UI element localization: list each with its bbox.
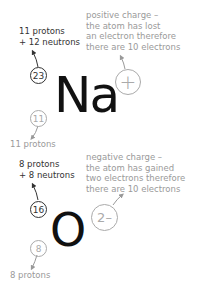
o-atomic-arrow xyxy=(32,255,37,268)
o-charge-note-line: negative charge – xyxy=(86,152,185,163)
o-charge-arrow xyxy=(113,195,122,205)
na-mass-number: 23 xyxy=(33,71,44,81)
na-charge-circle: + xyxy=(115,69,141,95)
o-mass-number-circle: 16 xyxy=(30,201,47,218)
na-atomic-number: 11 xyxy=(33,114,44,124)
na-mass-arrow xyxy=(33,52,38,67)
na-atomic-number-circle: 11 xyxy=(30,110,47,127)
o-mass-number: 16 xyxy=(33,205,44,215)
na-charge-arrow xyxy=(121,57,125,69)
na-mass-number-circle: 23 xyxy=(30,67,47,84)
plus-icon: + xyxy=(120,70,137,94)
na-symbol: Na xyxy=(54,70,118,120)
na-charge-note: positive charge – the atom has lost an e… xyxy=(86,10,180,52)
o-mass-note-line1: 8 protons xyxy=(19,159,75,170)
o-charge-circle: 2– xyxy=(91,204,118,231)
o-charge-note-line: two electrons therefore xyxy=(86,173,185,184)
o-charge-note-line: the atom has gained xyxy=(86,163,185,174)
na-atomic-arrow xyxy=(32,126,38,138)
o-atomic-number-circle: 8 xyxy=(30,240,47,257)
na-charge-note-line: there are 10 electrons xyxy=(86,42,180,53)
na-mass-note-line2: + 12 neutrons xyxy=(19,37,80,48)
o-mass-note: 8 protons + 8 neutrons xyxy=(19,159,75,180)
o-mass-note-line2: + 8 neutrons xyxy=(19,170,75,181)
minus-2-icon: 2– xyxy=(97,210,112,225)
na-charge-note-line: positive charge – xyxy=(86,10,180,21)
o-atomic-note: 8 protons xyxy=(10,270,50,281)
na-atomic-note: 11 protons xyxy=(10,139,56,150)
na-mass-note: 11 protons + 12 neutrons xyxy=(19,26,80,47)
na-charge-note-line: an electron therefore xyxy=(86,31,180,42)
o-atomic-number: 8 xyxy=(36,244,42,254)
na-mass-note-line1: 11 protons xyxy=(19,26,80,37)
o-mass-arrow xyxy=(33,185,38,200)
o-symbol: O xyxy=(50,207,86,253)
na-charge-note-line: the atom has lost xyxy=(86,21,180,32)
o-charge-note-line: there are 10 electrons xyxy=(86,184,185,195)
o-charge-note: negative charge – the atom has gained tw… xyxy=(86,152,185,194)
